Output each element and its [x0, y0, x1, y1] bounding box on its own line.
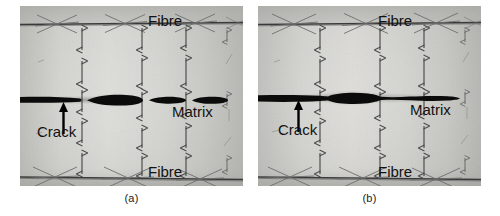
panel-caption-b: (b) [258, 192, 481, 204]
figure-micrograph-pair: Fibre Fibre Matrix Crack (a) [0, 0, 500, 216]
label-crack-b: Crack [278, 121, 317, 138]
micrograph-image-b: Fibre Fibre Matrix Crack [258, 6, 481, 186]
panel-caption-a: (a) [20, 192, 243, 204]
micrograph-svg-b [258, 6, 481, 186]
panel-a: Fibre Fibre Matrix Crack (a) [20, 0, 243, 216]
micrograph-svg-a [20, 6, 243, 186]
label-fibre-top-b: Fibre [378, 12, 412, 29]
micrograph-image-a: Fibre Fibre Matrix Crack [20, 6, 243, 186]
label-fibre-top-a: Fibre [148, 12, 182, 29]
panel-b: Fibre Fibre Matrix Crack (b) [258, 0, 481, 216]
label-fibre-bottom-a: Fibre [148, 163, 182, 180]
label-matrix-b: Matrix [410, 101, 451, 118]
label-crack-a: Crack [37, 123, 76, 140]
label-fibre-bottom-b: Fibre [378, 163, 412, 180]
label-matrix-a: Matrix [172, 103, 213, 120]
fibre-band-top-b [258, 6, 481, 24]
